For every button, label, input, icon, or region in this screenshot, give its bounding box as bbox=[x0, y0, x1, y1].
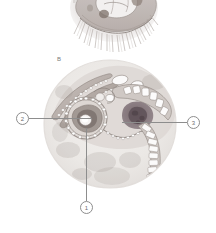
leader-line-2 bbox=[29, 118, 92, 119]
leader-line-1 bbox=[86, 128, 87, 201]
panel-b-micrograph bbox=[42, 58, 178, 190]
leader-line-3 bbox=[122, 122, 187, 123]
panel-a-image bbox=[68, 0, 160, 52]
callout-marker-3[interactable]: 3 bbox=[187, 116, 200, 129]
panel-b-image bbox=[42, 58, 178, 190]
callout-marker-1[interactable]: 1 bbox=[80, 201, 93, 214]
figure-root: B 2 3 1 bbox=[0, 0, 216, 233]
panel-b-label: B bbox=[57, 56, 61, 63]
panel-a-micrograph bbox=[68, 0, 160, 52]
callout-marker-2[interactable]: 2 bbox=[16, 112, 29, 125]
